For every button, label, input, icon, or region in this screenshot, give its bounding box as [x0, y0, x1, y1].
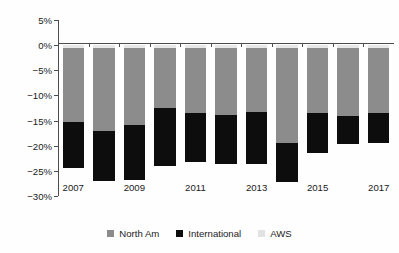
x-minor-tick [333, 43, 334, 47]
x-tick-label: 2011 [185, 182, 206, 193]
y-tick-label: −5% [33, 65, 52, 76]
legend-item-international[interactable]: International [176, 228, 241, 239]
bar-segment [246, 48, 267, 112]
y-tick [54, 70, 58, 71]
y-tick [54, 171, 58, 172]
bar-segment [276, 48, 297, 144]
x-minor-tick [150, 43, 151, 47]
bar-segment [124, 125, 145, 180]
x-tick-label: 2007 [63, 182, 84, 193]
y-tick-label: −15% [27, 115, 52, 126]
bar-segment [307, 48, 328, 113]
x-minor-tick [302, 43, 303, 47]
y-tick [54, 45, 58, 46]
y-tick-label: −20% [27, 140, 52, 151]
bar-segment [185, 48, 206, 113]
bar-segment [215, 115, 236, 165]
legend-item-aws[interactable]: AWS [258, 228, 292, 239]
x-minor-tick [89, 43, 90, 47]
bar-segment [337, 48, 358, 116]
x-tick-label: 2017 [368, 182, 389, 193]
legend-swatch-aws [258, 230, 265, 237]
y-axis-line [58, 20, 59, 196]
x-minor-tick [363, 43, 364, 47]
y-tick-label: −30% [27, 191, 52, 202]
bar-segment [93, 131, 114, 181]
y-tick [54, 95, 58, 96]
x-axis-zero-line [58, 43, 394, 44]
bar-segment [246, 112, 267, 165]
plot-area: 5%0%−5%−10%−15%−20%−25%−30% [58, 20, 394, 196]
x-tick-label: 2009 [124, 182, 145, 193]
bar-segment [185, 113, 206, 162]
y-tick-label: 5% [38, 15, 52, 26]
legend-item-north-am[interactable]: North Am [107, 228, 159, 239]
y-tick [54, 20, 58, 21]
bar-segment [63, 122, 84, 168]
bar-segment [337, 116, 358, 145]
bar-segment [276, 143, 297, 182]
bar-segment [215, 48, 236, 115]
x-tick-label: 2015 [307, 182, 328, 193]
x-tick-label: 2013 [246, 182, 267, 193]
legend-label-north-am: North Am [119, 228, 159, 239]
legend-label-international: International [188, 228, 241, 239]
legend-swatch-international [176, 230, 183, 237]
y-tick [54, 146, 58, 147]
chart-legend: North Am International AWS [0, 228, 399, 239]
bar-segment [154, 48, 175, 108]
bar-segment [368, 48, 389, 113]
x-minor-tick [211, 43, 212, 47]
y-tick-label: 0% [38, 40, 52, 51]
chart-figure: Sales growth QOQ 5%0%−5%−10%−15%−20%−25%… [0, 0, 399, 253]
bar-segment [63, 48, 84, 122]
y-tick-label: −25% [27, 165, 52, 176]
y-tick [54, 121, 58, 122]
x-minor-tick [180, 43, 181, 47]
legend-swatch-north-am [107, 230, 114, 237]
bar-segment [124, 48, 145, 125]
x-minor-tick [119, 43, 120, 47]
y-tick [54, 196, 58, 197]
bar-segment [93, 48, 114, 131]
x-minor-tick [272, 43, 273, 47]
bar-segment [368, 113, 389, 143]
x-minor-tick [241, 43, 242, 47]
bar-segment [307, 113, 328, 153]
legend-label-aws: AWS [270, 228, 292, 239]
bar-segment [154, 108, 175, 166]
y-tick-label: −10% [27, 90, 52, 101]
